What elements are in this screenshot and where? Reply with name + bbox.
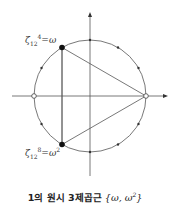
omega-squared-label: ζ128=ω2 — [25, 147, 60, 160]
point-minus-one — [32, 94, 37, 99]
omega-point — [59, 45, 65, 51]
point-one — [144, 94, 149, 99]
x-axis-arrow-icon — [163, 94, 168, 98]
caption: 1의 원시 3제곱근 {ω, ω2} — [0, 190, 170, 204]
omega-label: ζ124=ω — [25, 34, 56, 47]
roots-of-unity-diagram — [0, 0, 170, 208]
y-axis-arrow-icon — [88, 12, 92, 17]
